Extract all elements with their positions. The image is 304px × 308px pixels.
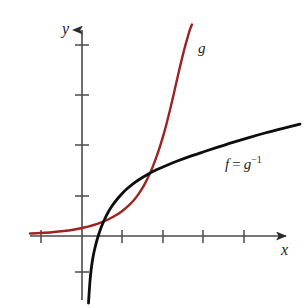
curve-f-label-exponent: −1 xyxy=(251,154,262,165)
exponential-curve-g xyxy=(30,25,192,234)
x-axis-label: x xyxy=(281,241,288,259)
curve-f-label-equals: = xyxy=(229,156,243,172)
y-axis-label: y xyxy=(62,20,69,38)
curve-g-label: g xyxy=(198,40,206,57)
curve-f-label: f=g−1 xyxy=(225,154,262,173)
inverse-function-figure: y x g f=g−1 xyxy=(0,0,304,308)
